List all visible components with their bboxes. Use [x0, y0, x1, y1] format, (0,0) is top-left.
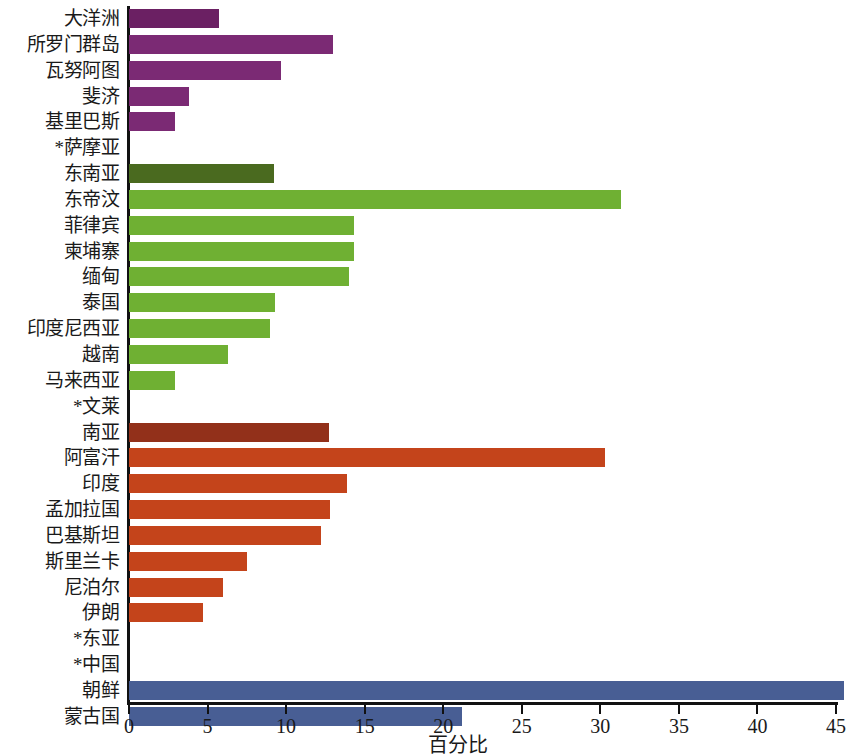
y-axis-label: 基里巴斯 [0, 109, 123, 135]
bar [129, 319, 270, 338]
y-axis-labels: 大洋洲所罗门群岛瓦努阿图斐济基里巴斯*萨摩亚东南亚东帝汶菲律宾柬埔寨缅甸泰国印度… [0, 6, 123, 704]
y-axis-label: *萨摩亚 [0, 135, 123, 161]
y-axis-label: 斯里兰卡 [0, 549, 123, 575]
bar-row [129, 239, 836, 265]
y-axis-label: 斐济 [0, 84, 123, 110]
bar-row [129, 58, 836, 84]
bar-row [129, 316, 836, 342]
x-tick [678, 705, 680, 714]
bar-row [129, 6, 836, 32]
bar-row [129, 600, 836, 626]
bar [129, 371, 175, 390]
bar-row [129, 213, 836, 239]
bar [129, 681, 844, 700]
bar-row [129, 368, 836, 394]
bar [129, 293, 275, 312]
x-tick [756, 705, 758, 714]
bar [129, 87, 189, 106]
bar-rows [129, 6, 836, 704]
y-axis-label: 柬埔寨 [0, 239, 123, 265]
bar [129, 35, 333, 54]
y-axis-label: 印度尼西亚 [0, 316, 123, 342]
y-axis-label: 尼泊尔 [0, 575, 123, 601]
bar-row [129, 264, 836, 290]
bar-row [129, 575, 836, 601]
bar [129, 345, 228, 364]
bar-row [129, 652, 836, 678]
y-axis-label: 越南 [0, 342, 123, 368]
y-axis-label: 印度 [0, 471, 123, 497]
x-tick [207, 705, 209, 714]
bar [129, 474, 347, 493]
y-axis-label: 蒙古国 [0, 704, 123, 730]
bar [129, 552, 247, 571]
bar [129, 267, 349, 286]
bar-row [129, 135, 836, 161]
y-axis-label: 孟加拉国 [0, 497, 123, 523]
x-tick [442, 705, 444, 714]
y-axis-label: 所罗门群岛 [0, 32, 123, 58]
y-axis-label: 瓦努阿图 [0, 58, 123, 84]
bar-row [129, 497, 836, 523]
bar-row [129, 626, 836, 652]
x-axis-title: 百分比 [0, 729, 856, 755]
x-axis-title-text: 百分比 [428, 729, 488, 755]
bar-row [129, 342, 836, 368]
bar-row [129, 471, 836, 497]
y-axis-label: 南亚 [0, 420, 123, 446]
bar [129, 164, 274, 183]
x-tick [128, 705, 130, 714]
bar-row [129, 109, 836, 135]
bar-row [129, 523, 836, 549]
y-axis-label: 缅甸 [0, 264, 123, 290]
bar-row [129, 549, 836, 575]
bar-row [129, 161, 836, 187]
y-axis-label: 大洋洲 [0, 6, 123, 32]
bar-chart: 大洋洲所罗门群岛瓦努阿图斐济基里巴斯*萨摩亚东南亚东帝汶菲律宾柬埔寨缅甸泰国印度… [0, 0, 856, 755]
bar [129, 448, 605, 467]
bar [129, 603, 203, 622]
y-axis-label: 菲律宾 [0, 213, 123, 239]
bar-row [129, 84, 836, 110]
y-axis-label: *文莱 [0, 394, 123, 420]
bar-row [129, 420, 836, 446]
bar-row [129, 32, 836, 58]
bar-row [129, 187, 836, 213]
bar-row [129, 678, 836, 704]
bar [129, 216, 354, 235]
bar [129, 242, 354, 261]
bar [129, 112, 175, 131]
y-axis-label: *东亚 [0, 626, 123, 652]
bar [129, 423, 329, 442]
y-axis-label: *中国 [0, 652, 123, 678]
y-axis-label: 朝鲜 [0, 678, 123, 704]
y-axis-label: 阿富汗 [0, 445, 123, 471]
bar [129, 500, 330, 519]
x-tick [521, 705, 523, 714]
bar-row [129, 290, 836, 316]
y-axis-label: 巴基斯坦 [0, 523, 123, 549]
x-tick [835, 705, 837, 714]
x-tick [599, 705, 601, 714]
x-tick [285, 705, 287, 714]
bar-row [129, 394, 836, 420]
y-axis-label: 东帝汶 [0, 187, 123, 213]
y-axis-label: 伊朗 [0, 600, 123, 626]
bar-row [129, 445, 836, 471]
x-tick [364, 705, 366, 714]
bar [129, 9, 219, 28]
bar [129, 526, 321, 545]
y-axis-label: 马来西亚 [0, 368, 123, 394]
bar [129, 578, 223, 597]
y-axis-label: 东南亚 [0, 161, 123, 187]
y-axis-label: 泰国 [0, 290, 123, 316]
bar [129, 190, 621, 209]
plot-area [129, 6, 836, 704]
bar [129, 61, 281, 80]
